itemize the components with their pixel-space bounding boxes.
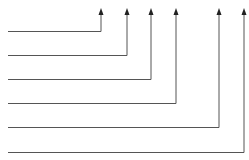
leader-line [8,14,127,56]
leader-line-diagram [0,0,249,160]
arrowhead-icon [99,8,104,15]
leader-line [8,14,101,32]
connector-1 [8,8,104,32]
arrowhead-icon [149,8,154,15]
connector-5 [8,8,222,128]
arrowhead-icon [174,8,179,15]
leader-line [8,14,244,153]
arrowhead-icon [217,8,222,15]
leader-line [8,14,151,80]
arrowhead-icon [125,8,130,15]
connector-3 [8,8,154,80]
arrowhead-icon [242,8,247,15]
